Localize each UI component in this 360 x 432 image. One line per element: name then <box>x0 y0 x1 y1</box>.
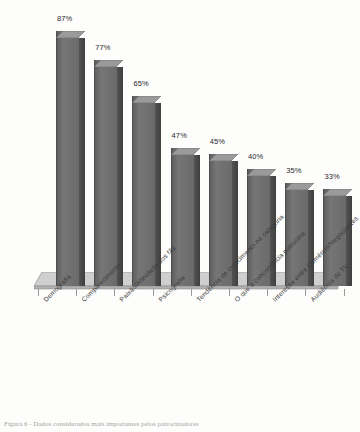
bar-side-face <box>307 190 314 286</box>
figure-caption: Figura 6 - Dados considerados mais impor… <box>4 420 356 428</box>
bar-value-label-2: 77% <box>95 43 110 52</box>
bar-front-face <box>132 96 155 286</box>
bar-front-face <box>94 60 117 286</box>
bar-front-face <box>56 31 79 286</box>
bar-value-label-3: 65% <box>133 79 148 88</box>
bar-top-face <box>323 189 352 196</box>
bar-2 <box>94 60 116 286</box>
bar-value-label-5: 45% <box>210 137 225 146</box>
bar-1 <box>56 31 78 286</box>
category-axis-labels: DemografiaComparecimentoPaixão/Afinidade… <box>0 296 360 416</box>
bar-top-face <box>132 96 161 103</box>
chart-plot-area: 87%77%65%47%45%40%35%33% <box>0 0 360 300</box>
axis-tick-7 <box>267 289 268 296</box>
axis-tick-3 <box>114 289 115 296</box>
axis-tick-4 <box>153 289 154 296</box>
bar-4 <box>171 148 193 286</box>
bar-top-face <box>56 31 85 38</box>
bar-top-face <box>285 183 314 190</box>
bar-value-label-8: 33% <box>324 172 339 181</box>
bar-side-face <box>345 196 352 286</box>
axis-tick-1 <box>38 289 39 296</box>
axis-tick-5 <box>191 289 192 296</box>
bar-value-label-4: 47% <box>172 131 187 140</box>
axis-tick-end <box>344 289 345 296</box>
axis-tick-6 <box>229 289 230 296</box>
bar-top-face <box>94 60 123 67</box>
bar-side-face <box>78 38 85 286</box>
bar-3 <box>132 96 154 286</box>
bar-value-label-7: 35% <box>286 166 301 175</box>
bar-side-face <box>116 67 123 286</box>
bar-value-label-6: 40% <box>248 152 263 161</box>
axis-tick-2 <box>76 289 77 296</box>
axis-tick-8 <box>305 289 306 296</box>
bar-top-face <box>171 148 200 155</box>
bar-front-face <box>171 148 194 286</box>
bar-top-face <box>247 169 276 176</box>
bar-value-label-1: 87% <box>57 14 72 23</box>
bar-top-face <box>209 154 238 161</box>
bar-side-face <box>193 155 200 286</box>
figure-container: 87%77%65%47%45%40%35%33% DemografiaCompa… <box>0 0 360 432</box>
